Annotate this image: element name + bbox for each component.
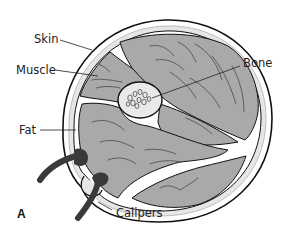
label-muscle: Muscle xyxy=(16,63,56,77)
skin-leader xyxy=(60,40,92,50)
label-skin: Skin xyxy=(34,32,58,46)
label-fat: Fat xyxy=(19,123,37,137)
label-calipers: Calipers xyxy=(116,206,163,220)
limb-cross-section-diagram: Skin Muscle Fat Bone Calipers A xyxy=(0,0,297,231)
label-bone: Bone xyxy=(243,56,272,70)
bone xyxy=(118,82,162,118)
panel-label: A xyxy=(17,207,26,221)
